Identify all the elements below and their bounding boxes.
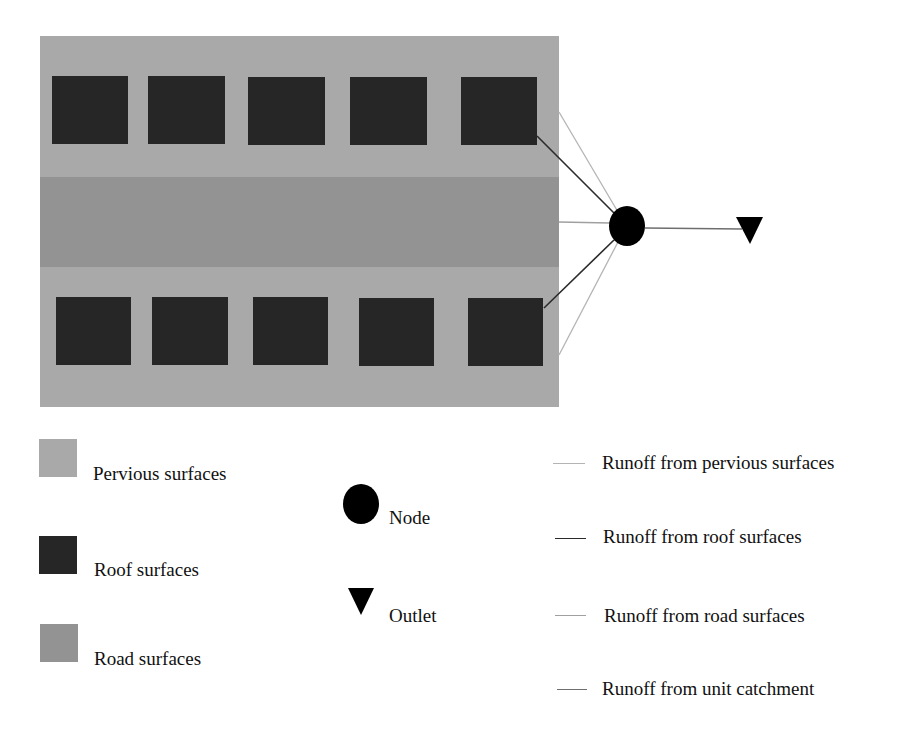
legend-pervious-label: Pervious surfaces xyxy=(93,463,227,485)
runoff-pervious-line-bottom xyxy=(559,242,618,355)
roof-top-4 xyxy=(350,77,427,145)
runoff-road-line xyxy=(559,222,610,223)
roof-top-2 xyxy=(148,76,225,144)
roof-top-3 xyxy=(248,77,325,145)
legend-roof-label: Roof surfaces xyxy=(94,559,199,581)
node-icon xyxy=(609,206,645,246)
road-area xyxy=(40,177,559,267)
runoff-pervious-line-top xyxy=(559,112,618,212)
roof-row-top xyxy=(52,76,537,145)
legend-runoff-road-label: Runoff from road surfaces xyxy=(604,605,805,627)
roof-bottom-2 xyxy=(152,297,228,365)
roof-bottom-5 xyxy=(468,298,543,366)
roof-row-bottom xyxy=(56,297,543,366)
legend-runoff-catchment-label: Runoff from unit catchment xyxy=(602,678,814,700)
legend-runoff-roof-label: Runoff from roof surfaces xyxy=(603,526,802,548)
roof-top-1 xyxy=(52,76,128,144)
legend-pervious-line-sample xyxy=(553,463,585,464)
roof-bottom-4 xyxy=(359,298,434,366)
legend-road-line-sample xyxy=(555,615,586,616)
legend-outlet-label: Outlet xyxy=(389,605,437,627)
legend-runoff-pervious-label: Runoff from pervious surfaces xyxy=(602,452,834,474)
legend-pervious-swatch xyxy=(39,439,77,477)
legend-roof-swatch xyxy=(39,536,77,574)
roof-bottom-1 xyxy=(56,297,131,365)
legend-road-swatch xyxy=(40,624,78,662)
roof-bottom-3 xyxy=(253,297,328,365)
legend-node-icon xyxy=(343,484,379,524)
outlet-icon xyxy=(736,217,763,244)
legend-outlet-icon xyxy=(348,588,374,615)
legend-roof-line-sample xyxy=(555,538,586,539)
runoff-catchment-line xyxy=(645,228,742,229)
legend-catchment-line-sample xyxy=(557,689,587,690)
legend-road-label: Road surfaces xyxy=(94,648,201,670)
legend-node-label: Node xyxy=(389,507,430,529)
roof-top-5 xyxy=(461,77,537,145)
